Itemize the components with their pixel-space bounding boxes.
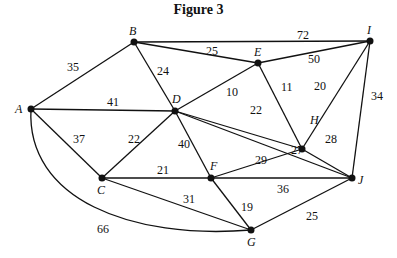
edge-weight-a-d: 41 [107, 95, 119, 109]
edge-weight-d-h: 22 [250, 103, 262, 117]
edge-weight-i-h: 20 [314, 79, 326, 93]
edge-weight-f-h: 29 [255, 153, 267, 167]
node-j [349, 175, 356, 182]
edge-weight-labels: 3541376624257250101120342222402728292131… [67, 28, 383, 236]
edge-b-i [134, 41, 370, 42]
edge-b-e [134, 42, 258, 63]
weighted-graph: 3541376624257250101120342222402728292131… [0, 0, 397, 258]
edge-a-d [31, 109, 175, 111]
edge-h-j [302, 149, 352, 178]
node-label-c: C [97, 183, 106, 197]
edge-weight-f-j: 36 [277, 182, 289, 196]
edge-weight-h-j: 28 [325, 132, 337, 146]
node-e [255, 60, 262, 67]
edge-weight-c-g: 31 [183, 192, 195, 206]
node-label-g: G [247, 235, 256, 249]
edge-weight-d-c: 22 [128, 132, 140, 146]
node-d [172, 108, 179, 115]
node-label-i: I [366, 23, 372, 37]
edge-e-h [258, 63, 302, 149]
edge-d-h [175, 111, 302, 149]
node-label-h: H [309, 113, 320, 127]
edge-weight-b-e: 25 [206, 44, 218, 58]
node-b [131, 39, 138, 46]
edge-g-j [251, 178, 352, 230]
node-label-b: B [129, 24, 137, 38]
node-label-f: F [209, 159, 218, 173]
node-label-d: D [171, 92, 181, 106]
edge-c-g [102, 178, 251, 230]
edge-weight-a-g: 66 [97, 222, 109, 236]
edge-weight-a-b: 35 [67, 60, 79, 74]
node-a [28, 106, 35, 113]
edge-weight-e-i: 50 [308, 52, 320, 66]
edge-weight-g-j: 25 [306, 209, 318, 223]
edge-weight-d-e: 10 [226, 85, 238, 99]
node-f [208, 175, 215, 182]
node-label-a: A [14, 102, 23, 116]
node-label-j: J [358, 173, 364, 187]
node-i [367, 38, 374, 45]
node-label-e: E [253, 45, 262, 59]
edge-weight-c-f: 21 [157, 163, 169, 177]
edge-d-e [175, 63, 258, 111]
edge-weight-b-d: 24 [157, 64, 169, 78]
edge-weight-d-f: 40 [178, 137, 190, 151]
edge-weight-f-g: 19 [241, 200, 253, 214]
edge-weight-b-i: 72 [297, 28, 309, 42]
edge-a-c [31, 109, 102, 178]
edge-i-j [352, 41, 370, 178]
edge-weight-e-h: 11 [281, 80, 293, 94]
node-c [99, 175, 106, 182]
node-g [248, 227, 255, 234]
edge-weight-a-c: 37 [73, 132, 85, 146]
node-h [299, 146, 306, 153]
edge-weight-i-j: 34 [371, 89, 383, 103]
